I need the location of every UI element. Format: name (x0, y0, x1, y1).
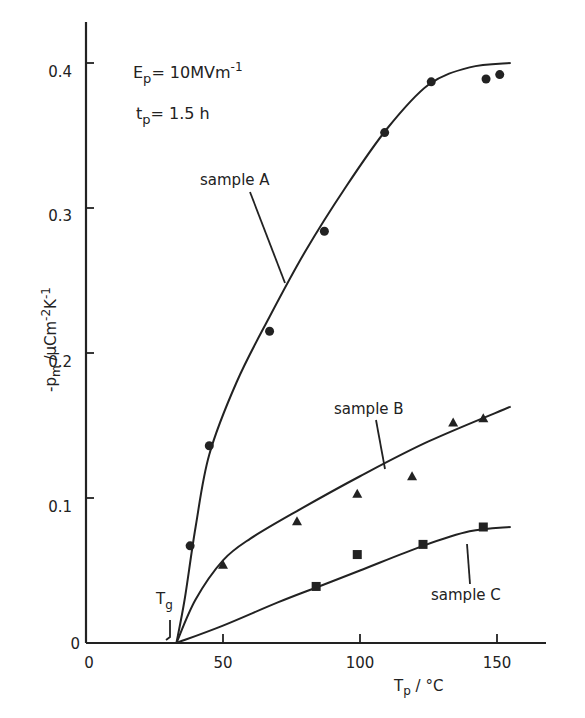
curves (176, 63, 510, 643)
x-tick-label: 150 (483, 654, 512, 672)
tp-annotation: tp= 1.5 h (136, 104, 210, 127)
tg-arrow-icon (166, 620, 170, 640)
data-points (186, 70, 505, 591)
sample-c-leader (467, 544, 470, 584)
y-tick-label: 0.1 (48, 498, 72, 516)
y-tick-label: 0 (70, 635, 80, 653)
sample-a-leader (250, 192, 285, 283)
triangle-marker-icon (478, 413, 488, 422)
chart: 0.4 0.3 0.2 0.1 0 0 50 100 150 Tp / °C -… (0, 0, 585, 718)
x-tick-label: 0 (84, 654, 94, 672)
sample-C-curve (176, 527, 510, 643)
circle-marker-icon (380, 128, 389, 137)
circle-marker-icon (320, 227, 329, 236)
ep-annotation: Ep= 10MVm-1 (133, 60, 243, 86)
sample-a-label: sample A (200, 171, 270, 189)
circle-marker-icon (205, 441, 214, 450)
circle-marker-icon (427, 77, 436, 86)
square-marker-icon (312, 582, 321, 591)
y-tick-label: 0.4 (48, 63, 72, 81)
y-axis-label: -pm /μCm-2K-1 (39, 287, 63, 392)
x-axis-label: Tp / °C (393, 677, 443, 698)
square-marker-icon (479, 523, 488, 532)
square-marker-icon (419, 540, 428, 549)
square-marker-icon (353, 550, 362, 559)
circle-marker-icon (265, 327, 274, 336)
circle-marker-icon (186, 541, 195, 550)
circle-marker-icon (482, 74, 491, 83)
triangle-marker-icon (448, 418, 458, 427)
triangle-marker-icon (407, 471, 417, 480)
sample-c-label: sample C (431, 586, 501, 604)
ticks (86, 63, 497, 643)
x-tick-label: 50 (213, 654, 232, 672)
x-tick-label: 100 (346, 654, 375, 672)
sample-B-curve (176, 407, 510, 643)
circle-marker-icon (495, 70, 504, 79)
sample-b-label: sample B (334, 400, 404, 418)
triangle-marker-icon (292, 516, 302, 525)
sample-b-leader (376, 420, 385, 469)
triangle-marker-icon (352, 489, 362, 498)
tg-annotation: Tg (155, 590, 173, 612)
y-tick-label: 0.3 (48, 207, 72, 225)
